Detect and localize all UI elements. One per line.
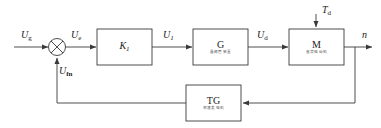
block-g-letter: G: [193, 40, 248, 50]
block-g-label: G 晶闸管装置: [193, 40, 248, 54]
block-tg-label: TG 测速发电机: [186, 96, 241, 110]
label-error-ue: Ue: [71, 30, 81, 42]
block-k1-subscript: 1: [126, 45, 130, 53]
block-m-caption: 直流电动机: [289, 51, 344, 54]
block-tg-caption: 测速发电机: [186, 107, 241, 110]
label-signal-u1: U1: [163, 30, 174, 42]
label-output-n: n: [362, 30, 367, 40]
label-input-ug-subscript: g: [28, 34, 32, 42]
block-k1-label: K1: [97, 41, 152, 53]
label-feedback-ufn: Ufn: [59, 66, 72, 78]
control-block-diagram: Ug Ue U1 Ud Td n Ufn K1 G 晶闸管装置 M 直流电动机 …: [0, 0, 381, 128]
block-m-letter: M: [289, 40, 344, 50]
block-tg-letter: TG: [186, 96, 241, 106]
label-disturbance-td: Td: [322, 5, 331, 17]
label-disturbance-td-subscript: d: [328, 9, 332, 17]
label-input-ug: Ug: [21, 30, 32, 42]
label-signal-u1-subscript: 1: [170, 34, 174, 42]
label-signal-ud: Ud: [257, 30, 268, 42]
label-signal-ud-subscript: d: [264, 34, 268, 42]
label-error-ue-subscript: e: [78, 34, 81, 42]
block-g-caption: 晶闸管装置: [193, 51, 248, 54]
label-output-n-symbol: n: [362, 29, 367, 40]
label-feedback-ufn-subscript: fn: [66, 70, 72, 78]
block-m-label: M 直流电动机: [289, 40, 344, 54]
